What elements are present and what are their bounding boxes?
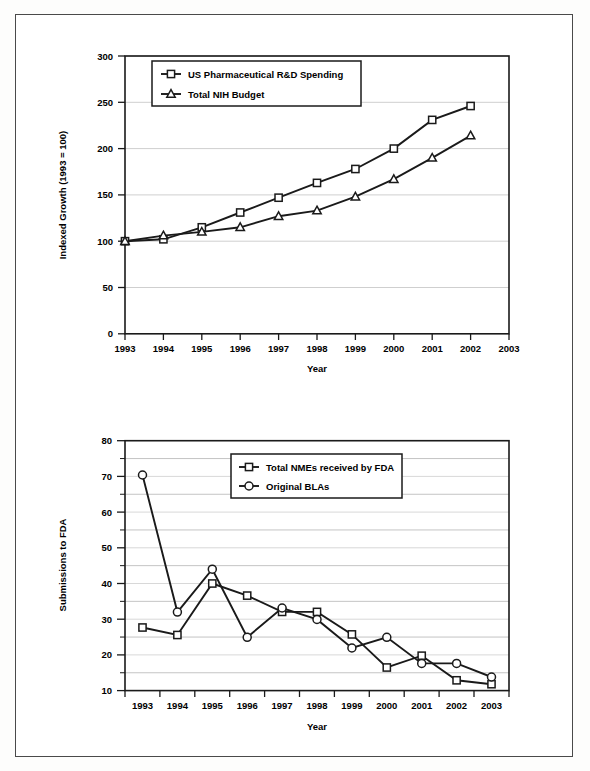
figure-frame: 300 250 200 150 100 50 0: [15, 14, 573, 757]
x-tick-label: 2000: [376, 700, 397, 711]
x-tick-label: 2001: [422, 343, 444, 354]
y-tick-label: 40: [101, 578, 112, 589]
x-tick-label: 1998: [306, 700, 327, 711]
x-tick-label: 1996: [237, 700, 258, 711]
series-line-nih-budget: [125, 136, 471, 242]
legend-marker-square: [245, 463, 252, 470]
legend-label-rd-spending: US Pharmaceutical R&D Spending: [188, 69, 343, 80]
legend-submissions: Total NMEs received by FDA Original BLAs: [231, 454, 402, 498]
legend-label-nih-budget: Total NIH Budget: [188, 89, 265, 100]
series-markers-blas: [139, 471, 496, 681]
x-tick-label: 1996: [230, 343, 251, 354]
legend-label-nmes: Total NMEs received by FDA: [266, 462, 394, 473]
x-tick-label: 2003: [498, 343, 519, 354]
x-tick-label: 1999: [341, 700, 362, 711]
x-tick-label: 1998: [306, 343, 327, 354]
y-tick-label: 0: [108, 328, 113, 339]
x-tick-label: 1995: [202, 700, 224, 711]
legend-label-blas: Original BLAs: [266, 481, 329, 492]
x-tick-label: 2002: [460, 343, 481, 354]
x-axis-title: Year: [307, 363, 327, 374]
x-tick-label: 1994: [167, 700, 189, 711]
x-tick-label: 1994: [153, 343, 175, 354]
series-line-blas: [143, 475, 492, 677]
x-tick-label: 1995: [191, 343, 213, 354]
series-line-rd-spending: [125, 106, 471, 241]
x-axis-ticks: [125, 691, 509, 697]
x-tick-label: 2002: [446, 700, 467, 711]
y-axis-title: Indexed Growth (1993 = 100): [57, 131, 68, 260]
x-tick-label: 1997: [272, 700, 293, 711]
x-tick-label: 1993: [132, 700, 153, 711]
y-tick-label: 200: [97, 143, 113, 154]
x-tick-label: 2003: [481, 700, 502, 711]
y-tick-label: 70: [101, 471, 112, 482]
y-tick-label: 80: [101, 435, 112, 446]
x-tick-label: 2000: [383, 343, 404, 354]
y-tick-label: 30: [101, 614, 112, 625]
y-tick-label: 60: [101, 507, 112, 518]
y-axis-title: Submissions to FDA: [57, 518, 68, 611]
series-markers-nmes: [139, 580, 495, 688]
y-tick-label: 50: [101, 542, 112, 553]
y-tick-label: 20: [101, 649, 112, 660]
series-markers-rd-spending: [121, 102, 474, 244]
y-tick-label: 150: [97, 189, 113, 200]
y-axis-ticks: [118, 56, 125, 334]
chart-submissions-svg: 80 70 60 50 40 30 20 10: [16, 405, 574, 758]
x-tick-label: 1999: [345, 343, 366, 354]
x-axis-title: Year: [307, 721, 327, 732]
series-line-nmes: [143, 584, 492, 685]
x-tick-label: 1993: [114, 343, 135, 354]
legend-indexed-growth: US Pharmaceutical R&D Spending Total NIH…: [152, 61, 361, 106]
legend-marker-square: [167, 70, 174, 77]
y-tick-label: 300: [97, 51, 113, 62]
x-tick-label: 1997: [268, 343, 289, 354]
y-tick-label: 250: [97, 97, 113, 108]
y-tick-label: 10: [101, 685, 112, 696]
x-axis-ticks: [125, 334, 509, 340]
y-tick-label: 100: [97, 236, 113, 247]
chart-indexed-growth-svg: 300 250 200 150 100 50 0: [16, 15, 574, 380]
legend-marker-circle: [245, 482, 253, 490]
x-tick-label: 2001: [411, 700, 433, 711]
y-tick-label: 50: [102, 282, 113, 293]
chart-submissions-to-fda: 80 70 60 50 40 30 20 10: [16, 405, 574, 758]
chart-indexed-growth: 300 250 200 150 100 50 0: [16, 15, 574, 380]
page-root: 300 250 200 150 100 50 0: [0, 0, 590, 771]
